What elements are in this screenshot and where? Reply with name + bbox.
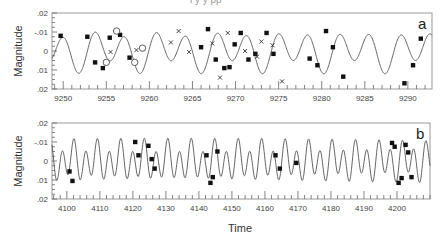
data-point-cross	[169, 40, 173, 44]
x-tick-label: 9285	[356, 94, 374, 103]
data-point-square	[273, 153, 277, 157]
data-point-square	[331, 45, 335, 49]
data-point-square	[403, 143, 407, 147]
data-point-cross	[187, 50, 191, 54]
data-point-square	[315, 63, 319, 67]
model-fit-curve	[52, 138, 430, 182]
x-tick-label: 4140	[190, 204, 208, 213]
data-point-circle	[113, 28, 119, 34]
data-point-square	[204, 153, 208, 157]
data-point-square	[101, 66, 105, 70]
data-point-cross	[226, 31, 230, 35]
data-point-circle	[139, 45, 145, 51]
data-point-square	[402, 81, 406, 85]
data-point-square	[264, 31, 268, 35]
data-point-square	[390, 141, 394, 145]
data-point-square	[70, 179, 74, 183]
plot-frame	[52, 123, 430, 199]
data-point-cross	[218, 76, 222, 80]
data-point-square	[341, 74, 345, 78]
x-tick-label: 4130	[157, 204, 175, 213]
data-point-square	[85, 35, 89, 39]
data-point-square	[208, 181, 212, 185]
data-point-cross	[109, 50, 113, 54]
data-point-square	[406, 150, 410, 154]
x-tick-label: 9255	[97, 94, 115, 103]
x-tick-label: 9290	[399, 94, 417, 103]
data-point-square	[239, 31, 243, 35]
x-tick-label: 9265	[184, 94, 202, 103]
data-point-cross	[243, 49, 247, 53]
y-axis-title: Magnitude	[12, 135, 24, 186]
data-point-cross	[177, 29, 181, 33]
data-point-square	[307, 56, 311, 60]
data-point-square	[409, 175, 413, 179]
data-point-square	[67, 169, 71, 173]
data-point-square	[419, 36, 423, 40]
data-point-square	[58, 34, 62, 38]
data-point-square	[399, 176, 403, 180]
data-point-square	[211, 175, 215, 179]
data-point-square	[222, 66, 226, 70]
x-axis-title: Time	[228, 222, 252, 234]
data-point-square	[149, 157, 153, 161]
y-tick-label: -.01	[34, 138, 48, 147]
y-tick-label: -.01	[34, 28, 48, 37]
data-point-square	[215, 149, 219, 153]
panel-label: b	[416, 125, 424, 142]
data-point-square	[214, 57, 218, 61]
y-tick-label: .02	[37, 119, 49, 128]
data-point-square	[396, 181, 400, 185]
y-tick-label: 0	[44, 47, 49, 56]
data-point-square	[294, 161, 298, 165]
data-point-square	[324, 29, 328, 33]
data-point-square	[246, 57, 250, 61]
panel-b-chart: .02-.010.01.0241004110412041304140415041…	[12, 119, 430, 213]
x-tick-label: 9270	[227, 94, 245, 103]
plot-frame	[52, 13, 432, 89]
x-tick-label: 4100	[58, 204, 76, 213]
y-tick-label: .02	[37, 195, 49, 204]
data-point-square	[227, 65, 231, 69]
y-tick-label: .01	[37, 66, 49, 75]
data-point-cross	[259, 40, 263, 44]
data-point-square	[133, 140, 137, 144]
light-curve-figure: l y y pp .02-.010.01.0292509255926092659…	[0, 0, 440, 240]
y-axis-title: Magnitude	[12, 25, 24, 76]
data-point-square	[206, 27, 210, 31]
x-tick-label: 4120	[124, 204, 142, 213]
panel-a-chart: .02-.010.01.0292509255926092659270927592…	[12, 9, 432, 103]
x-tick-label: 9250	[54, 94, 72, 103]
data-point-square	[278, 166, 282, 170]
data-point-square	[136, 153, 140, 157]
data-point-square	[108, 36, 112, 40]
x-tick-label: 4160	[256, 204, 274, 213]
panel-label: a	[418, 15, 427, 32]
x-tick-label: 9280	[313, 94, 331, 103]
data-point-square	[199, 45, 203, 49]
data-point-square	[271, 52, 275, 56]
data-point-square	[411, 63, 415, 67]
x-tick-label: 4200	[388, 204, 406, 213]
y-tick-label: 0	[44, 157, 49, 166]
x-tick-label: 4190	[355, 204, 373, 213]
data-point-circle	[132, 59, 138, 65]
x-tick-label: 4180	[322, 204, 340, 213]
x-tick-label: 9275	[270, 94, 288, 103]
data-point-cross	[134, 48, 138, 52]
data-point-square	[152, 166, 156, 170]
y-tick-label: .01	[37, 176, 49, 185]
x-tick-label: 4150	[223, 204, 241, 213]
data-point-square	[127, 55, 131, 59]
data-point-square	[146, 144, 150, 148]
x-tick-label: 4170	[289, 204, 307, 213]
data-point-square	[392, 145, 396, 149]
cropped-header-text: l y y pp	[190, 0, 222, 5]
x-tick-label: 4110	[91, 204, 109, 213]
x-tick-label: 9260	[140, 94, 158, 103]
y-tick-label: .02	[37, 85, 49, 94]
data-point-square	[93, 60, 97, 64]
data-point-square	[232, 42, 236, 46]
data-point-cross	[280, 79, 284, 83]
y-tick-label: .02	[37, 9, 49, 18]
